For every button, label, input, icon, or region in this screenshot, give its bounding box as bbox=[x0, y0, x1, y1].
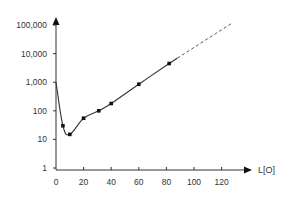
y-tick-label: 100,000 bbox=[16, 20, 47, 30]
x-axis bbox=[56, 167, 252, 174]
y-ticks: 1101001,00010,000100,000 bbox=[16, 20, 56, 173]
y-tick-label: 1,000 bbox=[26, 77, 48, 87]
x-tick-label: 120 bbox=[215, 177, 229, 187]
data-point-marker bbox=[109, 102, 113, 106]
data-point-marker bbox=[137, 82, 141, 86]
y-tick-label: 100 bbox=[33, 106, 47, 116]
data-curve bbox=[56, 58, 177, 135]
extrapolation-curve bbox=[177, 23, 232, 58]
x-tick-label: 20 bbox=[79, 177, 89, 187]
y-axis-arrow-icon bbox=[53, 17, 60, 25]
x-tick-label: 60 bbox=[134, 177, 144, 187]
x-tick-label: 40 bbox=[106, 177, 116, 187]
y-axis bbox=[53, 17, 60, 170]
x-axis-label: L[O] bbox=[258, 165, 275, 175]
x-tick-label: 80 bbox=[162, 177, 172, 187]
x-tick-label: 100 bbox=[187, 177, 201, 187]
y-tick-label: 1 bbox=[42, 163, 47, 173]
y-tick-label: 10 bbox=[38, 134, 48, 144]
x-tick-label: 0 bbox=[54, 177, 59, 187]
y-tick-label: 10,000 bbox=[21, 49, 47, 59]
x-axis-arrow-icon bbox=[244, 167, 252, 174]
data-point-marker bbox=[82, 116, 86, 120]
data-point-marker bbox=[68, 133, 72, 137]
data-point-marker bbox=[61, 124, 65, 128]
data-point-marker bbox=[97, 109, 101, 113]
chart: 1101001,00010,000100,000 020406080100120… bbox=[0, 0, 292, 201]
data-point-marker bbox=[167, 62, 171, 66]
